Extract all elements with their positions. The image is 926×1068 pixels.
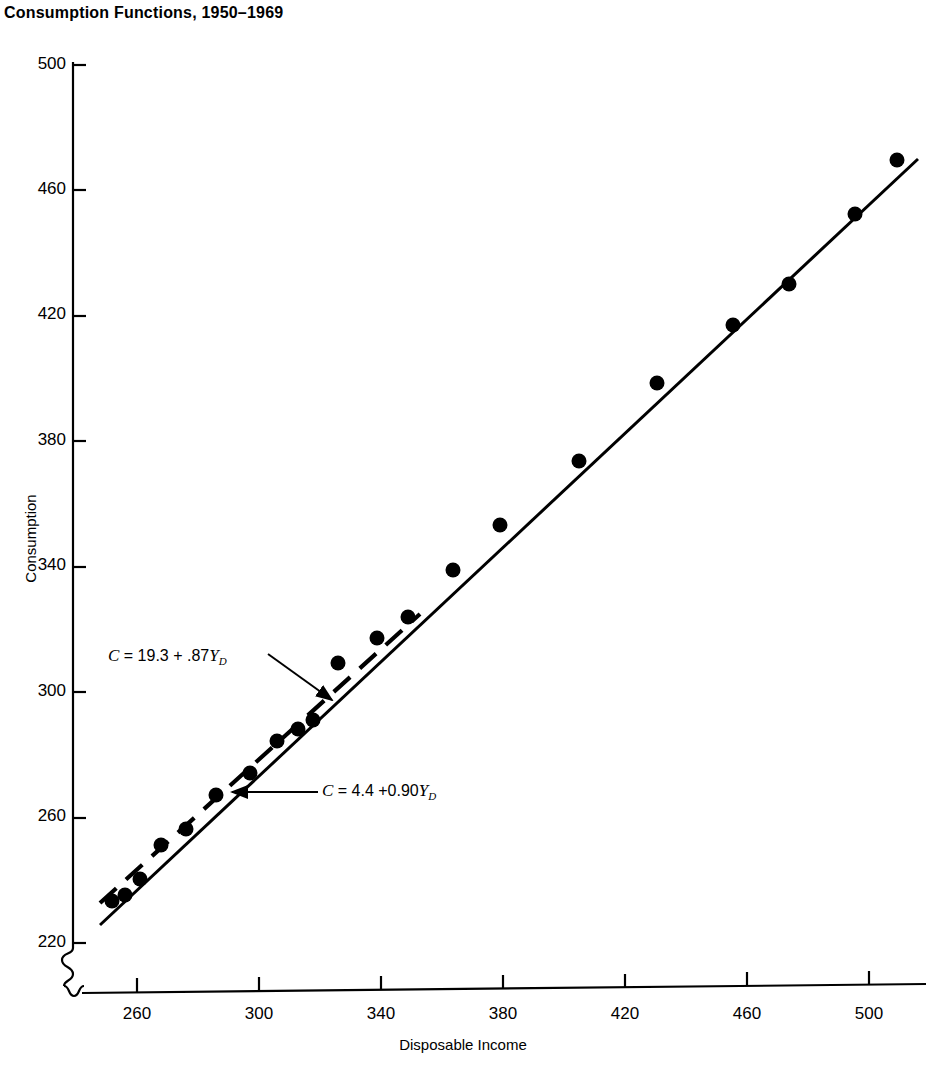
data-point [209,788,224,803]
data-point [331,656,346,671]
data-point [306,713,321,728]
regression-line-solid [100,159,918,925]
data-point [154,838,169,853]
data-point [133,872,148,887]
x-axis-ticks [137,971,869,992]
data-point [179,822,194,837]
data-point [726,318,741,333]
y-axis-break-mark [62,948,73,986]
chart-figure: Consumption Functions, 1950–1969 500 460… [0,0,926,1068]
y-axis-ticks [73,65,86,943]
data-point [782,277,797,292]
data-points [105,153,905,909]
data-point [572,454,587,469]
data-point [650,376,665,391]
annotation-arrow-dashed [268,654,332,700]
data-point [370,631,385,646]
data-point [401,610,416,625]
data-point [118,888,133,903]
data-point [291,722,306,737]
data-point [243,766,258,781]
data-point [890,153,905,168]
x-axis-break-mark [64,986,84,996]
data-point [848,207,863,222]
data-point [446,563,461,578]
data-point [493,518,508,533]
plot-area [0,0,926,1068]
data-point [270,734,285,749]
data-point [105,894,120,909]
regression-line-dashed [100,614,420,903]
